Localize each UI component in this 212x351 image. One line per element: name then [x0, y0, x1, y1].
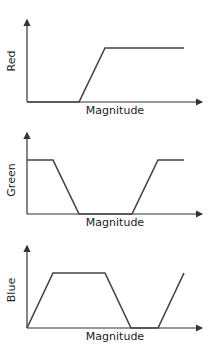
red-x-label: Magnitude	[86, 104, 145, 117]
green-x-label: Magnitude	[86, 216, 145, 229]
red-curve	[27, 48, 184, 102]
red-y-label: Red	[5, 51, 18, 72]
green-curve	[27, 160, 184, 214]
green-panel: Green Magnitude	[5, 133, 202, 229]
blue-x-label: Magnitude	[86, 330, 145, 343]
red-panel: Red Magnitude	[5, 20, 202, 117]
blue-panel: Blue Magnitude	[5, 246, 202, 343]
green-y-label: Green	[5, 163, 18, 196]
blue-curve	[27, 273, 184, 328]
blue-y-label: Blue	[5, 278, 18, 303]
rgb-transfer-diagram: Red Magnitude Green Magnitude Blue Magni…	[0, 0, 212, 351]
